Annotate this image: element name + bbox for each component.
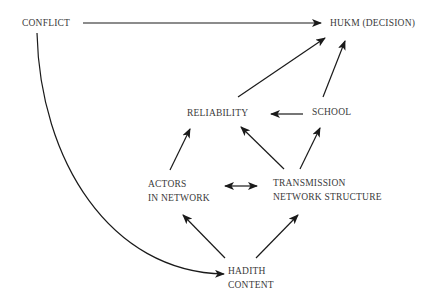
node-hukm: HUKM (DECISION)	[330, 16, 415, 30]
edge-actors-reliability	[170, 129, 190, 170]
edge-transmission-reliability	[241, 127, 284, 169]
node-actors-line2: IN NETWORK	[148, 191, 210, 205]
edge-reliability-hukm	[238, 38, 325, 97]
edges-layer	[0, 0, 436, 305]
edge-school-hukm	[323, 41, 345, 97]
edge-hadith-actors	[183, 215, 225, 258]
node-actors-line1: ACTORS	[148, 177, 210, 191]
node-conflict: CONFLICT	[22, 16, 70, 30]
node-hadith-line2: CONTENT	[228, 278, 274, 292]
node-hadith-line1: HADITH	[228, 264, 274, 278]
node-actors: ACTORS IN NETWORK	[148, 177, 210, 205]
node-transmission-line1: TRANSMISSION	[273, 176, 382, 190]
node-transmission: TRANSMISSION NETWORK STRUCTURE	[273, 176, 382, 204]
node-reliability: RELIABILITY	[187, 106, 248, 120]
edge-hadith-transmission	[256, 215, 298, 258]
node-school: SCHOOL	[312, 105, 351, 119]
edge-conflict-hadith	[37, 33, 224, 274]
node-transmission-line2: NETWORK STRUCTURE	[273, 190, 382, 204]
diagram-canvas: CONFLICT HUKM (DECISION) RELIABILITY SCH…	[0, 0, 436, 305]
node-hadith: HADITH CONTENT	[228, 264, 274, 292]
edge-transmission-school	[300, 128, 320, 169]
